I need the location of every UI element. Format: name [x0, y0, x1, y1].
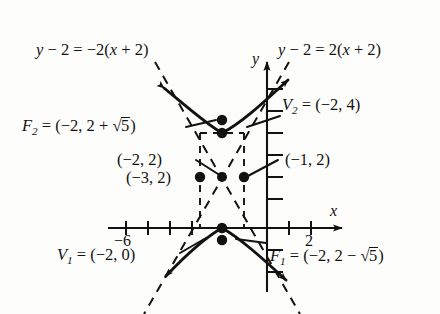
right-corner-label: (−1, 2): [285, 152, 330, 169]
asymptote-equation-right: y − 2 = 2(x + 2): [278, 42, 381, 59]
hyperbola-figure: y − 2 = −2(x + 2) y − 2 = 2(x + 2) y x −…: [0, 0, 440, 314]
point-vertex-lower: [217, 223, 227, 233]
point-focus-upper: [217, 115, 227, 125]
vertex-upper-label: V2 = (−2, 4): [282, 97, 360, 117]
point-right-corner: [239, 172, 249, 182]
asymptote-equation-left: y − 2 = −2(x + 2): [36, 42, 148, 59]
left-corner-label: (−3, 2): [126, 170, 171, 187]
upper-branch: [164, 80, 288, 133]
focus-upper-label: F2 = (−2, 2 + √5): [22, 117, 136, 138]
focus-lower-label: F1 = (−2, 2 − √5): [270, 247, 384, 268]
vertex-lower-label: V1 = (−2, 0): [57, 247, 135, 267]
point-vertex-upper: [217, 128, 227, 138]
y-axis-label: y: [252, 50, 259, 68]
point-left-corner: [195, 172, 205, 182]
x-axis-label: x: [330, 202, 337, 220]
point-center: [217, 172, 227, 182]
point-focus-lower: [217, 235, 227, 245]
center-label: (−2, 2): [117, 152, 162, 169]
plotted-points: [195, 115, 249, 245]
